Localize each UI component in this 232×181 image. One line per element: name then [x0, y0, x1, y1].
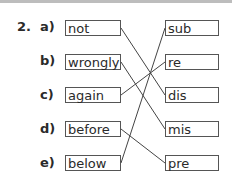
prefix-box-mis[interactable]: mis [165, 121, 219, 137]
word-box-again[interactable]: again [65, 87, 121, 103]
line-again-re [121, 62, 165, 95]
line-below-sub [121, 28, 165, 163]
question-number: 2. [17, 19, 31, 34]
line-not-dis [121, 28, 165, 95]
line-before-pre [121, 129, 165, 163]
word-box-below[interactable]: below [65, 155, 121, 171]
word-box-before[interactable]: before [65, 121, 121, 137]
prefix-box-re[interactable]: re [165, 54, 219, 70]
item-label-b: b) [40, 53, 55, 68]
word-box-wrongly[interactable]: wrongly [65, 54, 121, 70]
item-label-c: c) [40, 87, 54, 102]
item-label-a: a) [40, 19, 55, 34]
prefix-box-dis[interactable]: dis [165, 87, 219, 103]
item-label-d: d) [40, 121, 55, 136]
prefix-box-sub[interactable]: sub [165, 20, 219, 36]
prefix-box-pre[interactable]: pre [165, 155, 219, 171]
item-label-e: e) [40, 155, 55, 170]
word-box-not[interactable]: not [65, 20, 121, 36]
